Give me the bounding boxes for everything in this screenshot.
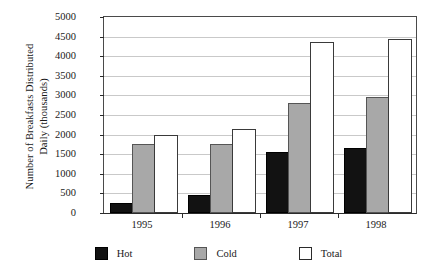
y-tick-label: 3500 bbox=[36, 71, 76, 82]
legend-swatch-hot-icon bbox=[95, 247, 108, 260]
x-tick-label-1996: 1996 bbox=[190, 219, 250, 230]
y-tick-label: 0 bbox=[36, 208, 76, 219]
y-tick-mark bbox=[100, 95, 104, 96]
gridline bbox=[104, 76, 416, 77]
legend-item-total: Total bbox=[299, 247, 342, 260]
bar-1995-total bbox=[154, 135, 178, 213]
bar-chart-figure: Number of Breakfasts Distributed Daily (… bbox=[0, 0, 437, 277]
x-tick-label-1997: 1997 bbox=[268, 219, 328, 230]
y-tick-mark bbox=[100, 193, 104, 194]
legend-label: Hot bbox=[117, 248, 133, 259]
bar-1997-total bbox=[310, 42, 334, 213]
bar-1998-total bbox=[388, 39, 412, 213]
y-tick-mark bbox=[100, 154, 104, 155]
bar-1995-hot bbox=[110, 203, 134, 213]
y-tick-mark bbox=[100, 17, 104, 18]
y-tick-label: 4500 bbox=[36, 32, 76, 43]
legend-item-cold: Cold bbox=[194, 247, 236, 260]
legend-label: Total bbox=[321, 248, 342, 259]
y-tick-label: 3000 bbox=[36, 90, 76, 101]
legend-label: Cold bbox=[216, 248, 236, 259]
gridline bbox=[104, 37, 416, 38]
gridline bbox=[104, 95, 416, 96]
bar-1996-hot bbox=[188, 195, 212, 213]
x-axis-labels: 1995199619971998 bbox=[103, 213, 417, 237]
y-tick-mark bbox=[100, 56, 104, 57]
y-tick-mark bbox=[100, 76, 104, 77]
y-tick-label: 500 bbox=[36, 188, 76, 199]
bar-1996-total bbox=[232, 129, 256, 213]
x-tick-label-1998: 1998 bbox=[346, 219, 406, 230]
bar-1995-cold bbox=[132, 144, 156, 213]
y-tick-label: 1000 bbox=[36, 169, 76, 180]
bar-1997-hot bbox=[266, 152, 290, 213]
legend-swatch-cold-icon bbox=[194, 247, 207, 260]
plot-area: 5000450040003500300025002000150010005000 bbox=[103, 16, 417, 214]
legend-swatch-total-icon bbox=[299, 247, 312, 260]
y-tick-mark bbox=[100, 174, 104, 175]
y-tick-label: 5000 bbox=[36, 12, 76, 23]
bar-1998-hot bbox=[344, 148, 368, 213]
y-tick-label: 1500 bbox=[36, 149, 76, 160]
chart-legend: HotColdTotal bbox=[0, 247, 437, 260]
bar-1997-cold bbox=[288, 103, 312, 213]
legend-item-hot: Hot bbox=[95, 247, 133, 260]
gridline bbox=[104, 56, 416, 57]
y-tick-label: 2500 bbox=[36, 110, 76, 121]
bar-1996-cold bbox=[210, 144, 234, 213]
y-tick-label: 2000 bbox=[36, 130, 76, 141]
y-tick-label: 4000 bbox=[36, 51, 76, 62]
bar-1998-cold bbox=[366, 97, 390, 213]
x-tick-label-1995: 1995 bbox=[112, 219, 172, 230]
y-tick-mark bbox=[100, 37, 104, 38]
y-tick-mark bbox=[100, 135, 104, 136]
y-tick-mark bbox=[100, 115, 104, 116]
